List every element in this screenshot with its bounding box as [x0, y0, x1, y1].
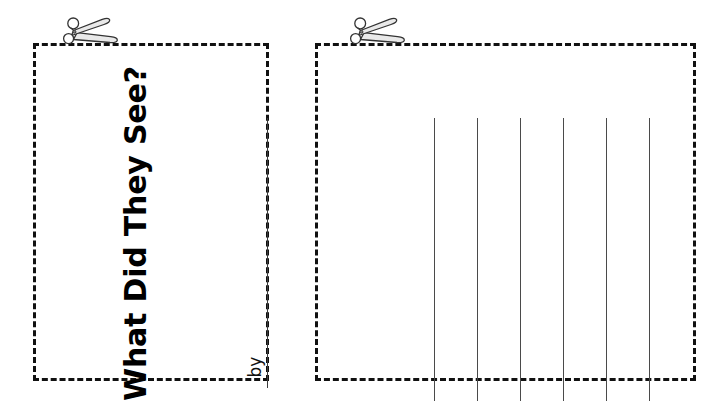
- byline-write-line: [267, 118, 268, 388]
- writing-line: [563, 118, 564, 401]
- cover-title-text: What Did They See?: [121, 66, 151, 401]
- booklet-cover-panel: What Did They See? by: [33, 43, 269, 381]
- writing-line: [520, 118, 521, 401]
- worksheet-page: What Did They See? by The shoemaker and …: [0, 0, 720, 401]
- byline-label-text: by: [247, 357, 264, 378]
- byline-group: by: [241, 108, 287, 401]
- writing-lines-group: [318, 46, 693, 378]
- writing-line: [434, 118, 435, 401]
- booklet-inside-page-panel: The shoemaker and his wife saw: [315, 43, 696, 381]
- byline-label: by: [243, 337, 267, 397]
- writing-line: [606, 118, 607, 401]
- writing-line: [649, 118, 650, 401]
- page-title: What Did They See?: [110, 101, 162, 401]
- writing-line: [477, 118, 478, 401]
